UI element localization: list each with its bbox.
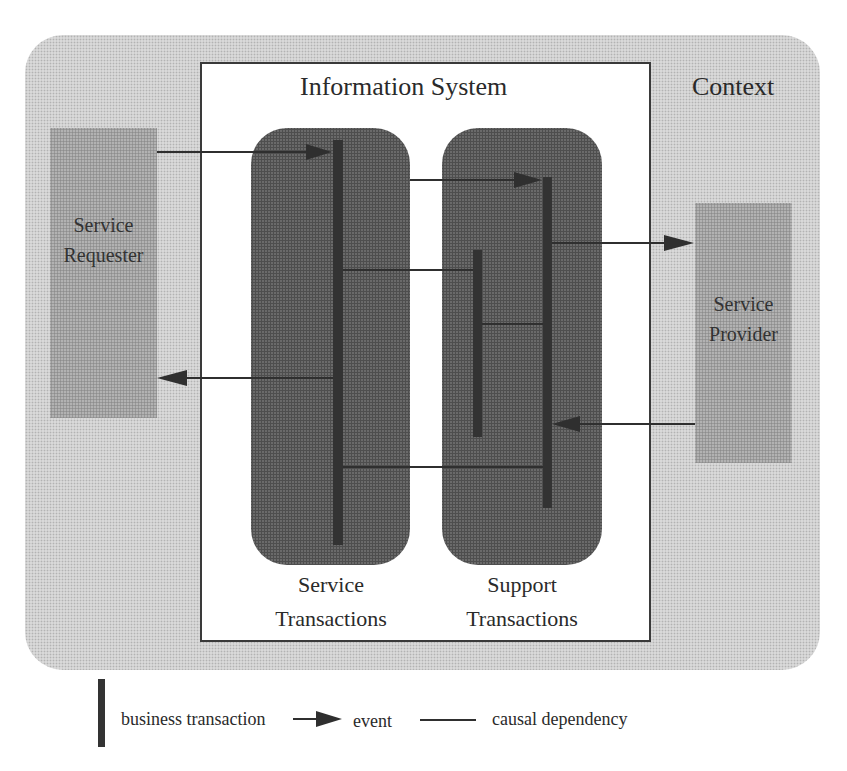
diagram-connectors [0,0,847,771]
support-transaction-bar-main [543,177,552,508]
causal-dependencies [343,270,543,467]
arrowhead-icon [157,370,187,386]
legend-business-transaction-label: business transaction [121,708,265,730]
service-transaction-bar [333,140,343,545]
legend-business-transaction-icon [98,679,105,747]
legend-causal-dependency-label: causal dependency [492,708,627,730]
arrowhead-icon [664,235,694,251]
arrowhead-icon [552,416,580,432]
support-transaction-bar-inner [473,250,482,437]
legend-arrow-icon [316,711,342,727]
event-arrows [157,144,695,432]
arrowhead-icon [514,172,542,188]
arrowhead-icon [306,144,332,160]
legend-event-label: event [353,710,392,732]
